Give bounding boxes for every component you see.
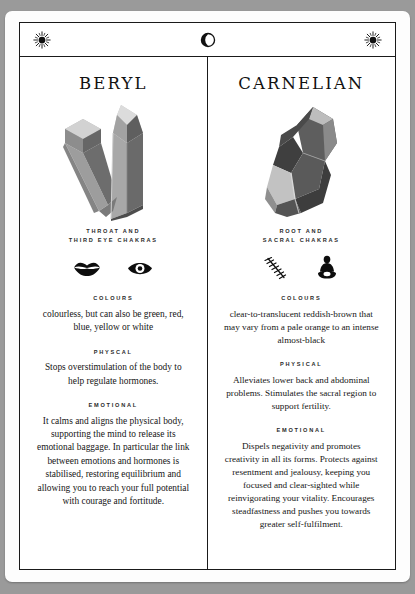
section-label: EMOTIONAL [221, 426, 383, 436]
sun-icon [33, 31, 51, 49]
chakra-label-line2: SACRAL CHAKRAS [221, 236, 383, 246]
section-label: COLOURS [221, 294, 383, 304]
stone-illustration [221, 97, 383, 225]
section-label: COLOURS [33, 294, 194, 304]
spine-vertebrae-icon [263, 255, 289, 281]
stone-entry-carnelian: CARNELIAN [208, 57, 396, 569]
seated-meditation-figure-icon [315, 255, 339, 281]
chakra-label-line2: THIRD EYE CHAKRAS [33, 236, 194, 246]
stone-entry-beryl: BERYL [20, 57, 208, 569]
lips-icon [73, 259, 101, 277]
section-colours: COLOURS colourless, but can also be gree… [33, 294, 194, 334]
section-text: clear-to-translucent reddish-brown that … [221, 308, 383, 347]
stone-columns: BERYL [20, 57, 395, 569]
page-card: BERYL [5, 11, 410, 582]
section-emotional: EMOTIONAL Dispels negativity and promote… [221, 426, 383, 531]
crescent-moon-icon [199, 31, 216, 48]
section-text: Alleviates lower back and abdominal prob… [221, 374, 383, 413]
sun-icon [364, 31, 382, 49]
section-text: It calms and aligns the physical body, s… [33, 415, 194, 508]
section-colours: COLOURS clear-to-translucent reddish-bro… [221, 294, 383, 347]
section-label: PHYSICAL [221, 360, 383, 370]
section-physical: PHYSICAL Alleviates lower back and abdom… [221, 360, 383, 413]
section-text: colourless, but can also be green, red, … [33, 308, 194, 335]
eye-icon [127, 260, 153, 277]
section-emotional: EMOTIONAL It calms and aligns the physic… [33, 401, 194, 508]
section-physical: PHYSCAL Stops overstimulation of the bod… [33, 348, 194, 388]
chakra-icon-row [33, 255, 194, 281]
page-rule-box: BERYL [19, 22, 396, 570]
page-title: BERYL [33, 76, 194, 93]
stone-illustration [33, 97, 194, 225]
section-label: EMOTIONAL [33, 401, 194, 411]
section-text: Dispels negativity and promotes creativi… [221, 440, 383, 531]
chakra-label-line1: ROOT AND [221, 227, 383, 237]
header-band [20, 23, 395, 57]
chakra-label-line1: THROAT AND [33, 227, 194, 237]
page-title: CARNELIAN [221, 76, 383, 93]
faceted-gemstone-icon [253, 103, 349, 219]
twin-crystal-point-icon [61, 99, 165, 223]
section-label: PHYSCAL [33, 348, 194, 358]
chakra-icon-row [221, 255, 383, 281]
section-text: Stops overstimulation of the body to hel… [33, 361, 194, 388]
